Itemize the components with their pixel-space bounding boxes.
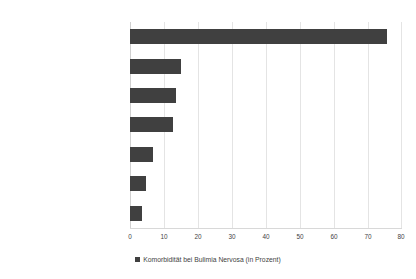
gridline-50	[300, 22, 301, 228]
x-tick-label-30: 30	[220, 233, 244, 241]
gridline-40	[266, 22, 267, 228]
gridline-20	[198, 22, 199, 228]
bar-sonstige	[130, 206, 142, 221]
bar-row	[130, 110, 173, 139]
legend-label: Komorbidität bei Bulimia Nervosa (in Pro…	[143, 255, 281, 264]
bar-row	[130, 140, 153, 169]
gridline-60	[334, 22, 335, 228]
bar-chart: Depressive Störungen Borderlinestörungen…	[0, 0, 416, 279]
bar-borderlinestoerungen	[130, 59, 181, 74]
bar-psychische-verhaltensstoerungen	[130, 147, 153, 162]
legend-swatch-icon	[135, 257, 140, 262]
bar-row	[130, 169, 146, 198]
bar-zwangsstoerungen	[130, 176, 146, 191]
gridline-70	[368, 22, 369, 228]
bar-depressive-stoerungen	[130, 29, 387, 44]
chart-legend: Komorbidität bei Bulimia Nervosa (in Pro…	[0, 255, 416, 264]
x-tick-label-20: 20	[186, 233, 210, 241]
x-axis-line	[130, 228, 402, 229]
plot-area	[130, 22, 402, 228]
bar-row	[130, 81, 176, 110]
gridline-80	[401, 22, 402, 228]
bar-row	[130, 51, 181, 80]
x-tick-label-70: 70	[356, 233, 380, 241]
bar-ptsd-anpassungsstoerungen	[130, 117, 173, 132]
bar-angststoerungen	[130, 88, 176, 103]
bar-row	[130, 199, 142, 228]
x-tick-label-10: 10	[152, 233, 176, 241]
gridline-30	[232, 22, 233, 228]
x-tick-label-80: 80	[389, 233, 413, 241]
x-tick-label-60: 60	[322, 233, 346, 241]
x-tick-label-40: 40	[254, 233, 278, 241]
x-tick-label-0: 0	[118, 233, 142, 241]
bar-row	[130, 22, 387, 51]
x-tick-label-50: 50	[288, 233, 312, 241]
